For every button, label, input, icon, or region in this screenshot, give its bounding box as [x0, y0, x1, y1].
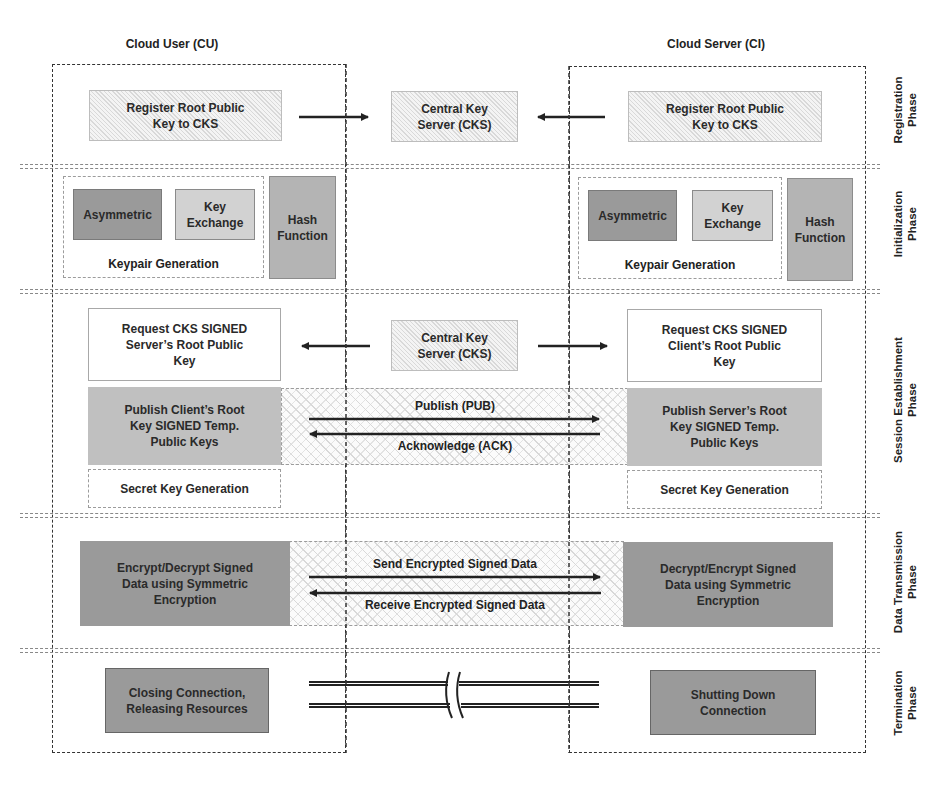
phase-termination-line1: Termination	[891, 671, 905, 736]
phase-session-line2: Phase	[905, 337, 919, 463]
phase-initialization-line1: Initialization	[891, 191, 905, 257]
connection-break-lines	[309, 672, 599, 718]
phase-registration-line1: Registration	[891, 76, 905, 143]
phase-registration-line2: Phase	[905, 76, 919, 143]
lane-borders	[346, 64, 569, 753]
phase-session-line1: Session Establishment	[891, 337, 905, 463]
phase-data-line1: Data Transmission	[891, 531, 905, 633]
phase-initialization-line2: Phase	[905, 191, 919, 257]
phase-data-line2: Phase	[905, 531, 919, 633]
phase-termination-line2: Phase	[905, 671, 919, 736]
connector-layer	[0, 0, 945, 786]
